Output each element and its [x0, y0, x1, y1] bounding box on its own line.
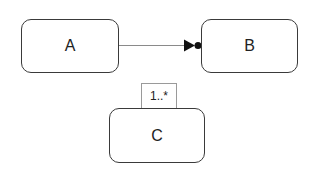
arrowhead-icon — [184, 40, 195, 52]
node-c-label: C — [151, 127, 163, 145]
multiplicity-label: 1..* — [141, 83, 177, 109]
node-b[interactable]: B — [201, 19, 298, 73]
node-c[interactable]: C — [109, 108, 205, 163]
node-a-label: A — [65, 37, 76, 55]
node-a[interactable]: A — [21, 19, 119, 73]
node-b-label: B — [244, 37, 255, 55]
multiplicity-text: 1..* — [150, 89, 168, 103]
